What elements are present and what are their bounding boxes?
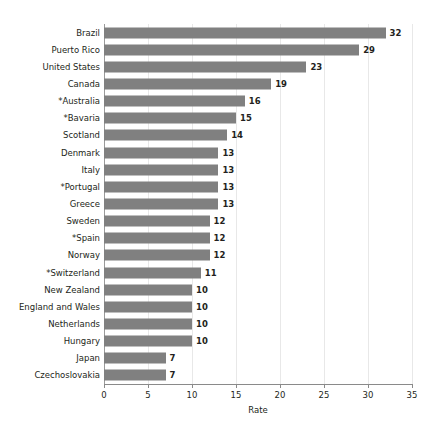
category-label: Japan [76, 354, 100, 363]
bar-value-label: 16 [249, 97, 261, 106]
bar-value-label: 13 [222, 148, 234, 157]
category-label: Denmark [61, 148, 100, 157]
bar-value-label: 29 [363, 45, 375, 54]
category-label: England and Wales [19, 303, 100, 312]
x-axis-line [104, 384, 412, 385]
category-label: Canada [68, 80, 100, 89]
bar [104, 181, 218, 192]
bar-row: United States23 [104, 58, 412, 75]
bar [104, 250, 210, 261]
bar-row: New Zealand10 [104, 281, 412, 298]
bar-value-label: 7 [170, 371, 176, 380]
bar [104, 301, 192, 312]
bar [104, 336, 192, 347]
bar-value-label: 15 [240, 114, 252, 123]
bar [104, 78, 271, 89]
bar-row: Canada19 [104, 75, 412, 92]
x-tick-label: 0 [101, 391, 106, 400]
x-tick-label: 10 [187, 391, 198, 400]
bar [104, 370, 166, 381]
bar-value-label: 23 [310, 63, 322, 72]
bar-row: Denmark13 [104, 144, 412, 161]
bar-value-label: 10 [196, 285, 208, 294]
bar-row: Brazil32 [104, 24, 412, 41]
plot-area: Brazil32Puerto Rico29United States23Cana… [104, 24, 412, 384]
bar-row: *Portugal13 [104, 178, 412, 195]
bar-row: Netherlands10 [104, 315, 412, 332]
bar-value-label: 13 [222, 183, 234, 192]
bar [104, 113, 236, 124]
bar-value-label: 10 [196, 320, 208, 329]
bar-value-label: 10 [196, 303, 208, 312]
bar-row: Norway12 [104, 247, 412, 264]
bar-row: *Spain12 [104, 230, 412, 247]
category-label: Netherlands [48, 320, 100, 329]
x-tick-25 [324, 384, 325, 388]
bar-value-label: 12 [214, 234, 226, 243]
x-tick-label: 35 [407, 391, 418, 400]
bar [104, 130, 227, 141]
category-label: Hungary [64, 337, 100, 346]
category-label: Scotland [63, 131, 100, 140]
bar-value-label: 7 [170, 354, 176, 363]
category-label: Brazil [76, 28, 100, 37]
bar-row: *Switzerland11 [104, 264, 412, 281]
bar-row: Greece13 [104, 195, 412, 212]
x-axis-title: Rate [104, 406, 412, 415]
bar [104, 61, 306, 72]
category-label: *Switzerland [46, 268, 100, 277]
bar [104, 284, 192, 295]
x-tick-label: 5 [145, 391, 150, 400]
bar-row: England and Wales10 [104, 298, 412, 315]
category-label: New Zealand [44, 285, 100, 294]
bar-row: Scotland14 [104, 127, 412, 144]
category-label: *Bavaria [63, 114, 100, 123]
bar-row: Puerto Rico29 [104, 41, 412, 58]
bar-value-label: 19 [275, 80, 287, 89]
x-tick-0 [104, 384, 105, 388]
bar-row: *Australia16 [104, 93, 412, 110]
bar [104, 267, 201, 278]
x-tick-35 [412, 384, 413, 388]
x-tick-label: 15 [231, 391, 242, 400]
category-label: *Spain [72, 234, 100, 243]
bar-value-label: 10 [196, 337, 208, 346]
bar-row: Czechoslovakia7 [104, 367, 412, 384]
bar-row: Sweden12 [104, 213, 412, 230]
bar-row: Italy13 [104, 161, 412, 178]
bar [104, 96, 245, 107]
x-tick-10 [192, 384, 193, 388]
category-label: Puerto Rico [52, 45, 100, 54]
category-label: Greece [70, 200, 100, 209]
bar-chart: Brazil32Puerto Rico29United States23Cana… [0, 0, 433, 447]
category-label: *Portugal [61, 183, 100, 192]
bar [104, 147, 218, 158]
category-label: Norway [68, 251, 100, 260]
category-label: Sweden [66, 217, 100, 226]
category-label: *Australia [58, 97, 100, 106]
bar [104, 44, 359, 55]
bar-row: Japan7 [104, 350, 412, 367]
category-label: Czechoslovakia [34, 371, 100, 380]
bar [104, 233, 210, 244]
bar-value-label: 12 [214, 217, 226, 226]
x-tick-label: 25 [319, 391, 330, 400]
bar-row: *Bavaria15 [104, 110, 412, 127]
category-label: United States [42, 63, 100, 72]
x-tick-15 [236, 384, 237, 388]
x-tick-label: 30 [363, 391, 374, 400]
bar [104, 27, 386, 38]
bar-row: Hungary10 [104, 333, 412, 350]
bar [104, 318, 192, 329]
gridline-35 [412, 24, 413, 384]
bar-value-label: 14 [231, 131, 243, 140]
x-tick-20 [280, 384, 281, 388]
bar-value-label: 12 [214, 251, 226, 260]
x-tick-5 [148, 384, 149, 388]
bar [104, 198, 218, 209]
bar-value-label: 13 [222, 165, 234, 174]
bar [104, 164, 218, 175]
bar-value-label: 11 [205, 268, 217, 277]
bar-value-label: 13 [222, 200, 234, 209]
bar [104, 353, 166, 364]
